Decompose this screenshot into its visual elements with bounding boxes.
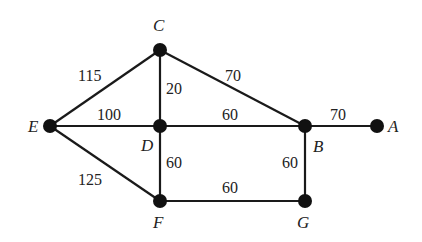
nodes-layer: ABCDEFG	[27, 16, 399, 232]
node-label-g: G	[297, 213, 309, 232]
node-f	[153, 194, 167, 208]
edges-layer: 11520701006070125606060	[50, 50, 377, 201]
edge-weight-label: 115	[78, 67, 101, 84]
edge-weight-label: 100	[97, 106, 121, 123]
node-label-e: E	[27, 117, 39, 136]
node-b	[298, 119, 312, 133]
edge-weight-label: 60	[222, 179, 238, 196]
edge-weight-label: 60	[282, 154, 298, 171]
node-label-a: A	[387, 117, 399, 136]
edge-weight-label: 60	[222, 106, 238, 123]
node-label-c: C	[153, 16, 165, 35]
edge-weight-label: 70	[225, 67, 241, 84]
node-label-f: F	[152, 213, 164, 232]
weighted-graph-diagram: 11520701006070125606060 ABCDEFG	[0, 0, 422, 242]
edge-weight-label: 20	[166, 80, 182, 97]
node-a	[370, 119, 384, 133]
node-d	[153, 119, 167, 133]
node-g	[298, 194, 312, 208]
node-label-d: D	[140, 136, 154, 155]
edge-weight-label: 125	[78, 171, 102, 188]
edge-weight-label: 70	[330, 106, 346, 123]
node-label-b: B	[313, 137, 324, 156]
node-e	[43, 119, 57, 133]
edge-weight-label: 60	[166, 154, 182, 171]
node-c	[153, 43, 167, 57]
